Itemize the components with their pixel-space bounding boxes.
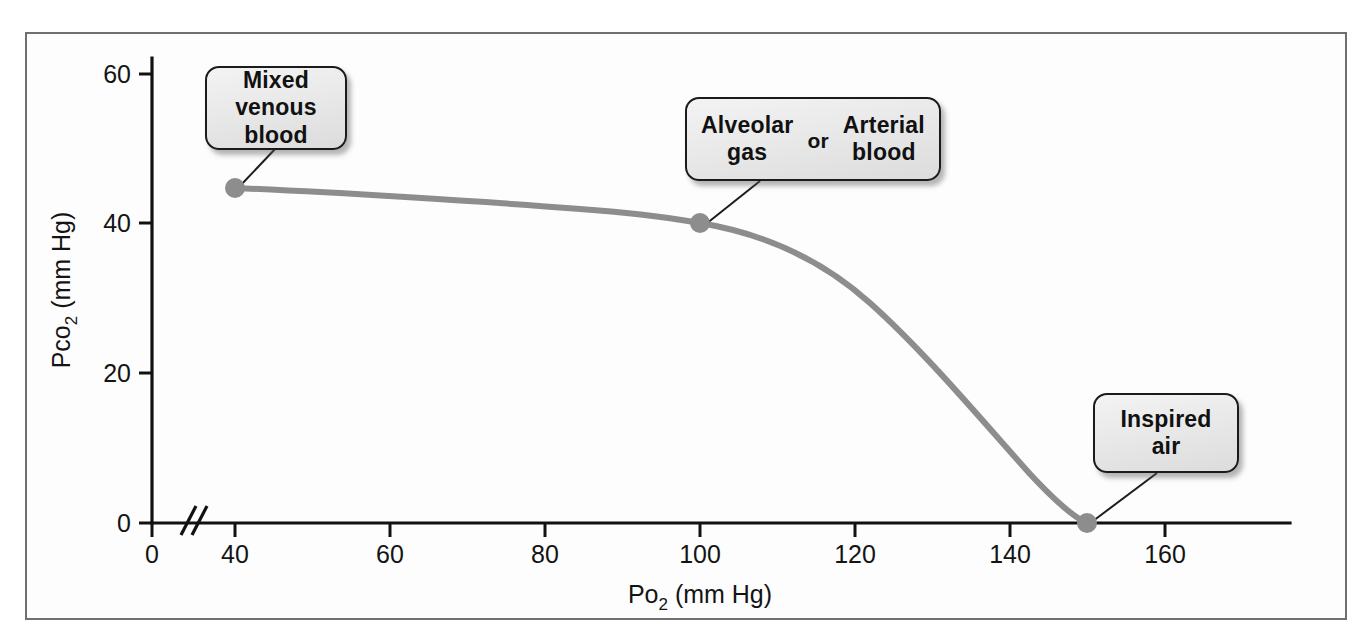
x-tick-label-140: 140 <box>989 540 1031 568</box>
y-tick-label-60: 60 <box>103 60 131 88</box>
callout-alveolar-line1: Alveolar <box>701 112 793 138</box>
y-tick-label-0: 0 <box>117 509 131 537</box>
callout-inspired-line2: air <box>1152 433 1181 459</box>
x-tick-label-0: 0 <box>145 540 159 568</box>
callout-alveolar-arterial[interactable]: Alveolar gas or Arterial blood <box>685 97 941 181</box>
callout-arterial-line2: blood <box>852 139 916 165</box>
callout-mixed-venous-line2: venous <box>235 94 317 120</box>
y-axis-title: Pco2 (mm Hg) <box>47 212 81 369</box>
y-tick-label-40: 40 <box>103 209 131 237</box>
callout-alveolar-conjunction: or <box>807 125 828 154</box>
leader-line-mixed-venous <box>240 148 276 186</box>
y-tick-label-20: 20 <box>103 359 131 387</box>
y-axis-ticks <box>139 74 152 523</box>
x-tick-label-40: 40 <box>221 540 249 568</box>
callout-mixed-venous-blood[interactable]: Mixed venous blood <box>205 66 347 150</box>
x-axis-break-icon <box>181 506 207 535</box>
figure-page: 60 40 20 0 0 40 60 80 100 120 140 160 Po… <box>0 0 1359 635</box>
data-point-alveolar[interactable] <box>690 213 710 233</box>
data-point-mixed-venous[interactable] <box>225 178 245 198</box>
callout-alveolar-left: Alveolar gas <box>701 112 793 166</box>
callout-mixed-venous-line1: Mixed <box>243 67 309 93</box>
leader-line-alveolar <box>706 181 760 224</box>
callout-inspired-air[interactable]: Inspired air <box>1093 393 1239 473</box>
x-tick-label-100: 100 <box>679 540 721 568</box>
chart-canvas: 60 40 20 0 0 40 60 80 100 120 140 160 Po… <box>0 0 1359 635</box>
x-axis-ticks <box>152 523 1165 537</box>
x-tick-label-120: 120 <box>834 540 876 568</box>
callout-mixed-venous-line3: blood <box>244 122 308 148</box>
data-point-inspired-air[interactable] <box>1077 513 1097 533</box>
leader-line-inspired <box>1093 473 1157 521</box>
x-tick-label-80: 80 <box>531 540 559 568</box>
callout-arterial-right: Arterial blood <box>843 112 925 166</box>
x-tick-label-60: 60 <box>376 540 404 568</box>
callout-alveolar-line2: gas <box>727 139 767 165</box>
x-axis-title: Po2 (mm Hg) <box>628 580 772 614</box>
callout-arterial-line1: Arterial <box>843 112 925 138</box>
x-tick-label-160: 160 <box>1144 540 1186 568</box>
gas-exchange-curve <box>235 188 1087 523</box>
callout-inspired-line1: Inspired <box>1120 406 1211 432</box>
